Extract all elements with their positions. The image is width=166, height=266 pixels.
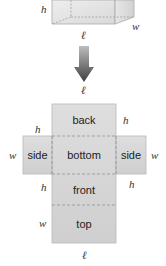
- panel-side-right: side: [116, 136, 146, 174]
- panel-side-right-label: side: [121, 149, 141, 161]
- left-side-height-label: h: [35, 124, 41, 135]
- panel-back-label: back: [72, 114, 95, 126]
- unfold-arrow-icon: [74, 46, 94, 82]
- box-height-label: h: [41, 4, 47, 15]
- panel-front-label: front: [73, 184, 95, 196]
- right-width-label: w: [151, 150, 158, 161]
- bottom-length-label: ℓ: [82, 250, 87, 261]
- panel-top-label: top: [76, 218, 91, 230]
- panel-bottom: bottom: [52, 136, 116, 174]
- rectangular-prism: [52, 0, 134, 24]
- top-left-width-label: w: [39, 218, 46, 229]
- panel-bottom-label: bottom: [67, 149, 101, 161]
- panel-back: back: [52, 104, 116, 136]
- box-width-label: w: [132, 21, 139, 32]
- box-length-label: ℓ: [81, 30, 86, 41]
- front-right-height-label: h: [129, 179, 135, 190]
- net-top-length-label: ℓ: [81, 85, 86, 96]
- panel-front: front: [52, 174, 116, 205]
- back-right-height-label: h: [123, 115, 129, 126]
- panel-side-left-label: side: [27, 149, 47, 161]
- panel-top: top: [52, 205, 116, 243]
- front-left-height-label: h: [41, 182, 47, 193]
- panel-side-left: side: [23, 136, 52, 174]
- left-width-label: w: [9, 150, 16, 161]
